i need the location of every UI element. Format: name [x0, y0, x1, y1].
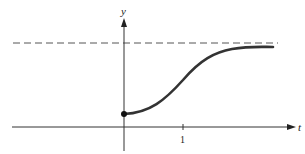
- x-tick-label-1: 1: [180, 134, 185, 145]
- y-axis-arrow-icon: [121, 18, 127, 27]
- y-axis-label: y: [120, 5, 126, 17]
- x-axis-label: t: [298, 121, 302, 133]
- initial-point: [121, 111, 127, 117]
- sigmoid-curve: [124, 47, 273, 114]
- graph: t y 1: [0, 0, 305, 154]
- x-axis-arrow-icon: [287, 124, 296, 130]
